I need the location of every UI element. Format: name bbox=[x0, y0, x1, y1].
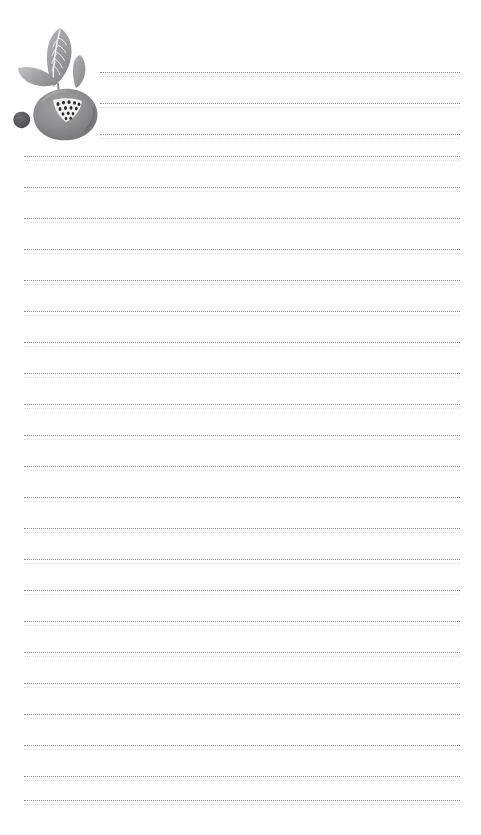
writing-line[interactable] bbox=[24, 745, 460, 746]
writing-line[interactable] bbox=[24, 590, 460, 591]
writing-line[interactable] bbox=[100, 72, 460, 73]
writing-line[interactable] bbox=[24, 435, 460, 436]
writing-line[interactable] bbox=[24, 652, 460, 653]
writing-line[interactable] bbox=[24, 280, 460, 281]
writing-line[interactable] bbox=[24, 776, 460, 777]
writing-line[interactable] bbox=[100, 134, 460, 135]
fruit-illustration bbox=[8, 22, 106, 144]
writing-line[interactable] bbox=[24, 800, 460, 801]
writing-line[interactable] bbox=[24, 497, 460, 498]
writing-line[interactable] bbox=[24, 714, 460, 715]
writing-line[interactable] bbox=[24, 621, 460, 622]
writing-line[interactable] bbox=[24, 249, 460, 250]
writing-line[interactable] bbox=[100, 103, 460, 104]
writing-line[interactable] bbox=[24, 373, 460, 374]
writing-line[interactable] bbox=[24, 187, 460, 188]
writing-line[interactable] bbox=[24, 528, 460, 529]
small-leaf-icon bbox=[73, 55, 85, 88]
writing-line[interactable] bbox=[24, 342, 460, 343]
writing-line[interactable] bbox=[24, 311, 460, 312]
writing-line[interactable] bbox=[24, 404, 460, 405]
writing-line[interactable] bbox=[24, 156, 460, 157]
writing-line[interactable] bbox=[24, 559, 460, 560]
writing-line[interactable] bbox=[24, 466, 460, 467]
writing-line[interactable] bbox=[24, 218, 460, 219]
small-berry-icon bbox=[13, 112, 30, 128]
writing-line[interactable] bbox=[24, 683, 460, 684]
notepaper-page bbox=[0, 0, 481, 835]
